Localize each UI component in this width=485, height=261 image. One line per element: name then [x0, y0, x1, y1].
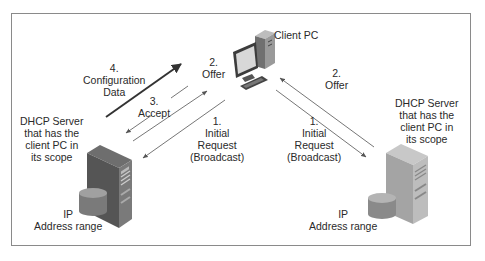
msg-initial-request-right-label: 1. Initial Request (Broadcast): [287, 115, 341, 163]
left-ip-range-label: IP Address range: [34, 208, 102, 232]
left-server-label: DHCP Server that has the client PC in it…: [20, 115, 83, 163]
right-ip-range-label: IP Address range: [309, 208, 377, 232]
right-server-label: DHCP Server that has the client PC in it…: [395, 97, 458, 145]
client-pc-icon: [233, 30, 275, 90]
msg-accept-label: 3. Accept: [138, 95, 170, 119]
msg-offer-left-label: 2. Offer: [202, 56, 225, 80]
client-pc-label: Client PC: [274, 29, 318, 41]
arrow-accept-upper-segment: [171, 86, 188, 98]
msg-configuration-data-label: 4. Configuration Data: [83, 62, 145, 98]
msg-offer-right-label: 2. Offer: [325, 67, 348, 91]
msg-initial-request-left-label: 1. Initial Request (Broadcast): [190, 115, 244, 163]
